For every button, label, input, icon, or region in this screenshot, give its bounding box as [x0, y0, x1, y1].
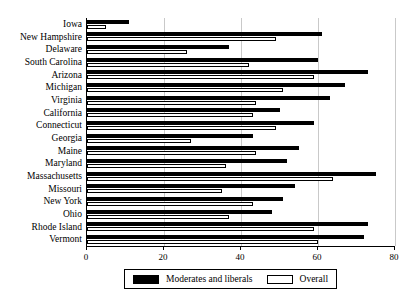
bar-moderates-and-liberals — [87, 20, 129, 24]
category-label-arizona: Arizona — [0, 70, 82, 80]
bar-overall — [87, 215, 229, 219]
x-axis-tick-label: 20 — [159, 252, 168, 262]
gridline — [395, 18, 396, 246]
plot-area — [86, 18, 395, 246]
bar-moderates-and-liberals — [87, 235, 364, 239]
chart-legend: Moderates and liberalsOverall — [124, 269, 337, 289]
bar-overall — [87, 164, 226, 168]
bar-moderates-and-liberals — [87, 210, 272, 214]
bar-overall — [87, 101, 256, 105]
category-label-vermont: Vermont — [0, 234, 82, 244]
category-label-south-carolina: South Carolina — [0, 57, 82, 67]
legend-swatch-icon — [267, 275, 293, 284]
x-axis-tick — [317, 246, 318, 250]
legend-swatch-icon — [133, 275, 159, 284]
category-label-california: California — [0, 108, 82, 118]
x-axis-tick-label: 0 — [84, 252, 89, 262]
category-label-massachusetts: Massachusetts — [0, 171, 82, 181]
gridline — [318, 18, 319, 246]
legend-label: Overall — [300, 274, 329, 284]
category-label-missouri: Missouri — [0, 184, 82, 194]
bar-overall — [87, 151, 256, 155]
bar-moderates-and-liberals — [87, 222, 368, 226]
x-axis-tick — [240, 246, 241, 250]
category-label-maryland: Maryland — [0, 158, 82, 168]
bar-moderates-and-liberals — [87, 172, 376, 176]
category-label-delaware: Delaware — [0, 44, 82, 54]
x-axis: 020406080 — [86, 246, 394, 247]
category-label-new-hampshire: New Hampshire — [0, 32, 82, 42]
bar-moderates-and-liberals — [87, 146, 299, 150]
bar-moderates-and-liberals — [87, 32, 322, 36]
bar-moderates-and-liberals — [87, 58, 318, 62]
horizontal-bar-chart: IowaNew HampshireDelawareSouth CarolinaA… — [0, 0, 414, 297]
category-label-ohio: Ohio — [0, 209, 82, 219]
bar-moderates-and-liberals — [87, 83, 345, 87]
category-label-iowa: Iowa — [0, 19, 82, 29]
category-label-connecticut: Connecticut — [0, 120, 82, 130]
bar-moderates-and-liberals — [87, 197, 283, 201]
x-axis-tick — [394, 246, 395, 250]
category-label-maine: Maine — [0, 146, 82, 156]
category-label-rhode-island: Rhode Island — [0, 222, 82, 232]
bar-moderates-and-liberals — [87, 96, 330, 100]
x-axis-tick-label: 40 — [236, 252, 245, 262]
bar-overall — [87, 37, 276, 41]
bar-moderates-and-liberals — [87, 159, 287, 163]
bar-overall — [87, 177, 333, 181]
bar-moderates-and-liberals — [87, 121, 314, 125]
bar-moderates-and-liberals — [87, 70, 368, 74]
bar-overall — [87, 202, 253, 206]
category-label-new-york: New York — [0, 196, 82, 206]
legend-item: Moderates and liberals — [133, 274, 253, 284]
bar-moderates-and-liberals — [87, 108, 280, 112]
x-axis-tick-label: 60 — [313, 252, 322, 262]
x-axis-tick-label: 80 — [390, 252, 399, 262]
bar-overall — [87, 139, 191, 143]
bar-overall — [87, 126, 276, 130]
bar-overall — [87, 63, 249, 67]
bar-overall — [87, 227, 314, 231]
category-axis-labels: IowaNew HampshireDelawareSouth CarolinaA… — [0, 18, 82, 246]
legend-label: Moderates and liberals — [166, 274, 253, 284]
x-axis-tick — [86, 246, 87, 250]
category-label-georgia: Georgia — [0, 133, 82, 143]
bar-overall — [87, 113, 253, 117]
bar-overall — [87, 189, 222, 193]
bar-overall — [87, 75, 314, 79]
category-label-virginia: Virginia — [0, 95, 82, 105]
bar-moderates-and-liberals — [87, 184, 295, 188]
bar-overall — [87, 50, 187, 54]
bar-overall — [87, 240, 318, 244]
legend-item: Overall — [267, 274, 329, 284]
bar-moderates-and-liberals — [87, 134, 253, 138]
x-axis-tick — [163, 246, 164, 250]
category-label-michigan: Michigan — [0, 82, 82, 92]
bar-overall — [87, 88, 283, 92]
bar-overall — [87, 25, 106, 29]
bar-moderates-and-liberals — [87, 45, 229, 49]
